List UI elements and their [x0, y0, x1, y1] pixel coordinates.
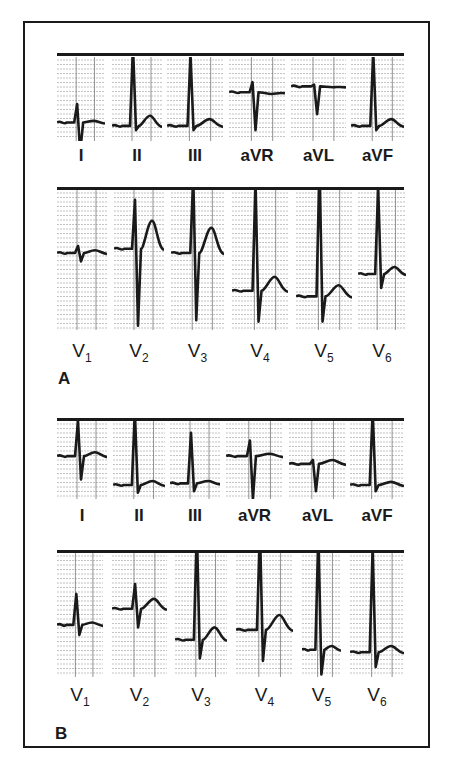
lead-row-baseline-bar — [57, 53, 404, 56]
lead-label-base: V — [70, 684, 83, 705]
lead-label: V4 — [236, 684, 293, 709]
lead-label: V5 — [296, 340, 352, 365]
lead-label-base: V — [250, 340, 263, 361]
ecg-strip — [350, 553, 404, 677]
lead-label-base: V — [130, 684, 143, 705]
ecg-strip — [171, 190, 224, 330]
lead-label: V6 — [350, 684, 404, 709]
ecg-strip — [175, 553, 227, 677]
lead-label-subscript: 4 — [263, 351, 270, 365]
lead-label-base: V — [188, 340, 201, 361]
lead-label: III — [170, 506, 220, 526]
lead-label: V3 — [175, 684, 227, 709]
lead-label-subscript: 3 — [201, 351, 208, 365]
ecg-strip — [57, 553, 103, 677]
ecg-strip — [112, 553, 167, 677]
lead-label-base: V — [255, 684, 268, 705]
ecg-strip — [296, 190, 352, 330]
lead-label: aVL — [289, 506, 346, 526]
ecg-strip — [113, 421, 165, 499]
lead-label-subscript: 5 — [327, 351, 334, 365]
ecg-strip — [57, 421, 107, 499]
ecg-strip — [226, 421, 283, 499]
panel-letter-b: B — [55, 724, 67, 744]
lead-label-base: V — [314, 340, 327, 361]
lead-label: I — [57, 506, 107, 526]
ecg-strip — [350, 421, 404, 499]
lead-label: V1 — [57, 340, 107, 365]
lead-label-subscript: 3 — [204, 695, 211, 709]
lead-label-subscript: 6 — [385, 351, 392, 365]
lead-label: aVR — [226, 506, 283, 526]
ecg-strip — [170, 421, 220, 499]
lead-label: V5 — [302, 684, 341, 709]
ecg-strip — [358, 190, 406, 330]
ecg-strip — [229, 57, 285, 141]
lead-label-base: V — [129, 340, 142, 361]
lead-label-subscript: 1 — [83, 695, 90, 709]
lead-label: aVF — [350, 506, 404, 526]
ecg-strip — [289, 421, 346, 499]
lead-label: II — [113, 506, 165, 526]
lead-label: aVL — [291, 146, 346, 166]
lead-label-subscript: 5 — [325, 695, 332, 709]
ecg-strip — [57, 190, 107, 330]
lead-label: I — [57, 146, 105, 166]
lead-label-subscript: 2 — [143, 695, 150, 709]
lead-label-subscript: 1 — [85, 351, 92, 365]
lead-label: II — [112, 146, 162, 166]
ecg-strip — [232, 190, 288, 330]
ecg-strip — [114, 190, 164, 330]
lead-label-base: V — [372, 340, 385, 361]
ecg-strip — [167, 57, 223, 141]
lead-label: V3 — [171, 340, 224, 365]
ecg-strip — [236, 553, 293, 677]
lead-label: V1 — [57, 684, 103, 709]
lead-label-subscript: 6 — [380, 695, 387, 709]
lead-label-base: V — [72, 340, 85, 361]
lead-label: V6 — [358, 340, 406, 365]
lead-label-subscript: 4 — [268, 695, 275, 709]
ecg-strip — [351, 57, 404, 141]
lead-label: V2 — [114, 340, 164, 365]
lead-label-base: V — [312, 684, 325, 705]
lead-label: aVF — [351, 146, 404, 166]
lead-label-base: V — [367, 684, 380, 705]
panel-letter-a: A — [58, 369, 70, 389]
ecg-strip — [302, 553, 341, 677]
lead-label: V2 — [112, 684, 167, 709]
ecg-strip — [57, 57, 105, 141]
lead-label-subscript: 2 — [142, 351, 149, 365]
lead-label: V4 — [232, 340, 288, 365]
lead-label: aVR — [229, 146, 285, 166]
lead-label-base: V — [191, 684, 204, 705]
ecg-strip — [112, 57, 162, 141]
lead-label: III — [167, 146, 223, 166]
ecg-strip — [291, 57, 346, 141]
